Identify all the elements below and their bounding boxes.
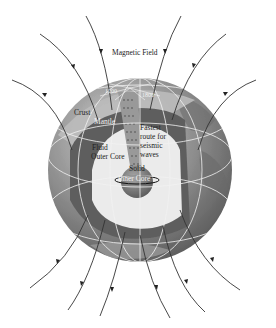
mantle-label: Mantle: [94, 118, 115, 126]
seismic-route-label-line1: Fastest: [140, 124, 161, 132]
depth-label-right: 1800: [142, 91, 154, 99]
seismic-route-label-line2: route for: [140, 133, 166, 141]
depth-label-left: 1200: [105, 87, 117, 95]
crust-label: Crust: [74, 109, 90, 117]
solid-inner-core-label-line1: Solid: [129, 165, 145, 173]
fluid-outer-core-label-line1: Fluid: [92, 144, 108, 152]
magnetic-field-label: Magnetic Field: [112, 49, 158, 57]
seismic-route-label-line3: seismic: [140, 142, 163, 150]
seismic-route-label-line4: waves: [140, 151, 159, 159]
field-arrows-bottom: [56, 257, 214, 292]
earth-interior-diagram: Magnetic Field 1200 1800 Crust Mantle Fl…: [0, 0, 276, 328]
fluid-outer-core-label-line2: Outer Core: [91, 153, 125, 161]
solid-inner-core-label-line2: Inner Core: [118, 175, 150, 183]
